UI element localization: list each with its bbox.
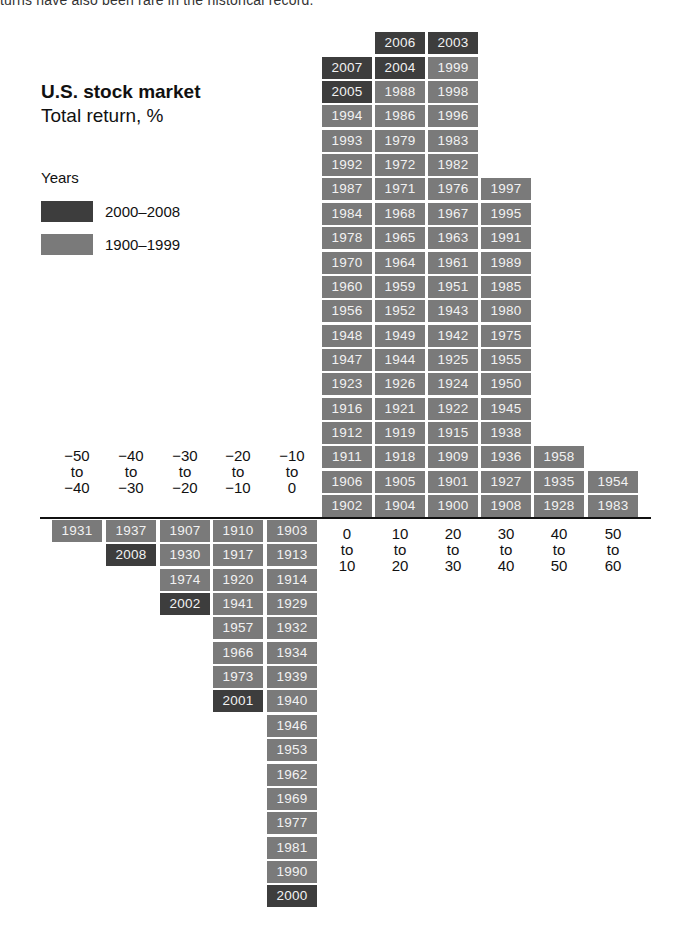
year-cell: 1932	[267, 617, 317, 639]
year-cell: 1976	[428, 178, 478, 200]
year-cell: 1951	[428, 276, 478, 298]
year-cell: 1984	[322, 203, 372, 225]
year-cell: 1998	[428, 81, 478, 103]
year-cell: 1975	[481, 325, 531, 347]
bin-label-line: to	[212, 464, 264, 480]
year-cell: 1907	[160, 520, 210, 542]
year-cell: 1915	[428, 422, 478, 444]
year-cell: 1966	[213, 642, 263, 664]
bin-label-line: to	[374, 542, 426, 558]
bin-label: 30to40	[480, 526, 532, 574]
bin-label-line: 50	[533, 558, 585, 574]
year-cell: 1901	[428, 471, 478, 493]
bin-label-line: 30	[427, 558, 479, 574]
year-cell: 1902	[322, 495, 372, 517]
bin-label: −40to−30	[105, 448, 157, 496]
year-cell: 1974	[160, 569, 210, 591]
year-cell: 1959	[375, 276, 425, 298]
bin-label-line: to	[427, 542, 479, 558]
bin-label-line: −10	[212, 480, 264, 496]
bin-label-line: to	[587, 542, 639, 558]
year-cell: 1947	[322, 349, 372, 371]
year-cell: 1969	[267, 788, 317, 810]
year-cell: 1981	[267, 837, 317, 859]
year-cell: 1920	[213, 569, 263, 591]
bin-label-line: to	[533, 542, 585, 558]
bin-label-line: −10	[266, 448, 318, 464]
bin-label: 10to20	[374, 526, 426, 574]
bin-label-line: to	[480, 542, 532, 558]
bin-label: −30to−20	[159, 448, 211, 496]
year-cell: 1929	[267, 593, 317, 615]
bin-label-line: −30	[159, 448, 211, 464]
bin-label: 50to60	[587, 526, 639, 574]
year-cell: 1956	[322, 300, 372, 322]
year-cell: 2004	[375, 57, 425, 79]
year-cell: 1980	[481, 300, 531, 322]
year-cell: 2005	[322, 81, 372, 103]
bin-label-line: 10	[374, 526, 426, 542]
year-cell: 1957	[213, 617, 263, 639]
bin-label: 40to50	[533, 526, 585, 574]
year-cell: 1913	[267, 544, 317, 566]
year-cell: 1973	[213, 666, 263, 688]
year-cell: 1931	[52, 520, 102, 542]
year-cell: 1910	[213, 520, 263, 542]
year-cell: 1985	[481, 276, 531, 298]
year-cell: 1945	[481, 398, 531, 420]
year-cell: 1972	[375, 154, 425, 176]
year-cell: 1940	[267, 690, 317, 712]
year-cell: 1965	[375, 227, 425, 249]
histogram-chart: 1931−50to−4019372008−40to−30190719301974…	[0, 0, 678, 940]
year-cell: 2000	[267, 885, 317, 907]
year-cell: 1950	[481, 373, 531, 395]
year-cell: 1997	[481, 178, 531, 200]
year-cell: 1962	[267, 764, 317, 786]
bin-label-line: −40	[51, 480, 103, 496]
year-cell: 1942	[428, 325, 478, 347]
year-cell: 1917	[213, 544, 263, 566]
bin-label-line: to	[51, 464, 103, 480]
year-cell: 1954	[588, 471, 638, 493]
year-cell: 1995	[481, 203, 531, 225]
bin-label-line: to	[159, 464, 211, 480]
year-cell: 1949	[375, 325, 425, 347]
year-cell: 1948	[322, 325, 372, 347]
year-cell: 2002	[160, 593, 210, 615]
year-cell: 1991	[481, 227, 531, 249]
year-cell: 1906	[322, 471, 372, 493]
year-cell: 1971	[375, 178, 425, 200]
bin-label-line: −40	[105, 448, 157, 464]
year-cell: 1914	[267, 569, 317, 591]
year-cell: 1911	[322, 446, 372, 468]
bin-label-line: 40	[533, 526, 585, 542]
year-cell: 1961	[428, 252, 478, 274]
year-cell: 1926	[375, 373, 425, 395]
bin-label-line: 40	[480, 558, 532, 574]
year-cell: 1967	[428, 203, 478, 225]
year-cell: 1983	[588, 495, 638, 517]
year-cell: 1983	[428, 130, 478, 152]
bin-label: −20to−10	[212, 448, 264, 496]
year-cell: 2008	[106, 544, 156, 566]
bin-label: 0to10	[321, 526, 373, 574]
year-cell: 1989	[481, 252, 531, 274]
year-cell: 1996	[428, 105, 478, 127]
year-cell: 1960	[322, 276, 372, 298]
year-cell: 1916	[322, 398, 372, 420]
bin-label-line: to	[321, 542, 373, 558]
year-cell: 1921	[375, 398, 425, 420]
year-cell: 1937	[106, 520, 156, 542]
year-cell: 1958	[534, 446, 584, 468]
year-cell: 2006	[375, 32, 425, 54]
year-cell: 1964	[375, 252, 425, 274]
bin-label-line: 10	[321, 558, 373, 574]
year-cell: 1993	[322, 130, 372, 152]
bin-label-line: 50	[587, 526, 639, 542]
bin-label-line: 20	[374, 558, 426, 574]
year-cell: 1986	[375, 105, 425, 127]
year-cell: 1930	[160, 544, 210, 566]
year-cell: 1982	[428, 154, 478, 176]
year-cell: 1968	[375, 203, 425, 225]
year-cell: 1941	[213, 593, 263, 615]
